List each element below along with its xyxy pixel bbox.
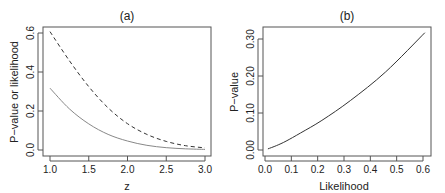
panel-b-y-axis: 0.000.100.200.30 [245,29,263,160]
panel-a-x-axis: 1.01.52.02.53.0 [43,156,212,175]
x-tick-label: 1.0 [43,164,57,175]
panel-a: (a) 0.00.20.40.6 1.01.52.02.53.0 z P−val… [8,9,212,192]
x-tick-label: 3.0 [198,164,212,175]
y-tick-label: 0.6 [25,26,36,40]
series-line [268,33,425,149]
x-tick-label: 0.2 [311,164,325,175]
y-tick-label: 0.00 [245,140,256,160]
panel-a-plot-box [43,27,211,156]
x-tick-label: 2.5 [159,164,173,175]
panel-b-title: (b) [340,9,355,23]
y-tick-label: 0.30 [245,29,256,49]
panel-a-y-axis: 0.00.20.40.6 [25,26,43,157]
panel-a-lines [50,32,205,150]
x-tick-label: 0.1 [284,164,298,175]
y-tick-label: 0.2 [25,104,36,118]
panel-b-x-axis: 0.00.10.20.30.40.50.6 [258,156,430,175]
y-tick-label: 0.4 [25,65,36,79]
panel-b: (b) 0.000.100.200.30 0.00.10.20.30.40.50… [228,9,431,192]
panel-b-plot-box [263,27,431,156]
series-line [50,88,205,149]
panel-a-title: (a) [120,9,135,23]
x-tick-label: 2.0 [121,164,135,175]
x-tick-label: 0.6 [416,164,430,175]
panel-a-y-label: P−value or likelihood [8,41,20,143]
panel-b-y-label: P−value [228,72,240,112]
panel-a-x-label: z [124,180,130,192]
series-line [50,32,205,148]
panel-b-lines [268,33,425,149]
y-tick-label: 0.20 [245,66,256,86]
x-tick-label: 0.4 [363,164,377,175]
panel-b-x-label: Likelihood [319,180,369,192]
x-tick-label: 0.0 [258,164,272,175]
x-tick-label: 0.5 [390,164,404,175]
y-tick-label: 0.0 [25,143,36,157]
y-tick-label: 0.10 [245,103,256,123]
x-tick-label: 1.5 [82,164,96,175]
figure: (a) 0.00.20.40.6 1.01.52.02.53.0 z P−val… [0,0,445,193]
x-tick-label: 0.3 [337,164,351,175]
